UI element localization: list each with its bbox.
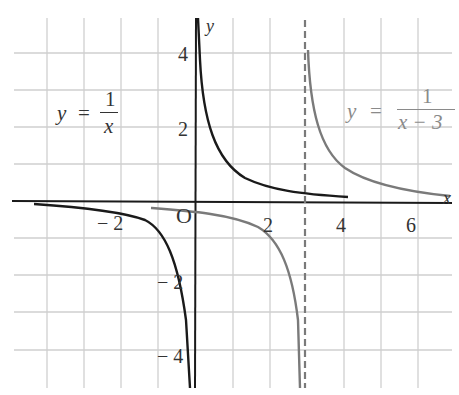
x-axis <box>12 201 452 203</box>
y-tick-minus-2: − 2 <box>157 272 183 292</box>
x-tick-2: 2 <box>263 215 273 235</box>
eq2-numerator: 1 <box>422 86 433 107</box>
x-tick-6: 6 <box>406 215 416 235</box>
eq2-equals: = <box>370 101 382 122</box>
x-axis-label: x <box>443 189 451 207</box>
eq1-equals: = <box>78 103 90 124</box>
y-axis-label: y <box>206 17 214 35</box>
eq2-denominator: x − 3 <box>398 112 443 133</box>
origin-label: O <box>176 205 192 227</box>
curve-1-over-x-right <box>198 18 348 197</box>
eq1-denominator: x <box>104 116 113 137</box>
x-tick-4: 4 <box>336 215 346 235</box>
eq1-numerator: 1 <box>105 89 116 110</box>
y-tick-2: 2 <box>178 119 188 139</box>
graph-canvas <box>0 0 459 395</box>
y-tick-minus-4: − 4 <box>157 346 183 366</box>
x-tick-minus-2: − 2 <box>97 213 123 233</box>
y-tick-4: 4 <box>178 44 188 64</box>
y-axis <box>195 18 196 388</box>
eq2-lhs: y <box>347 101 356 122</box>
eq1-lhs: y <box>57 103 66 124</box>
